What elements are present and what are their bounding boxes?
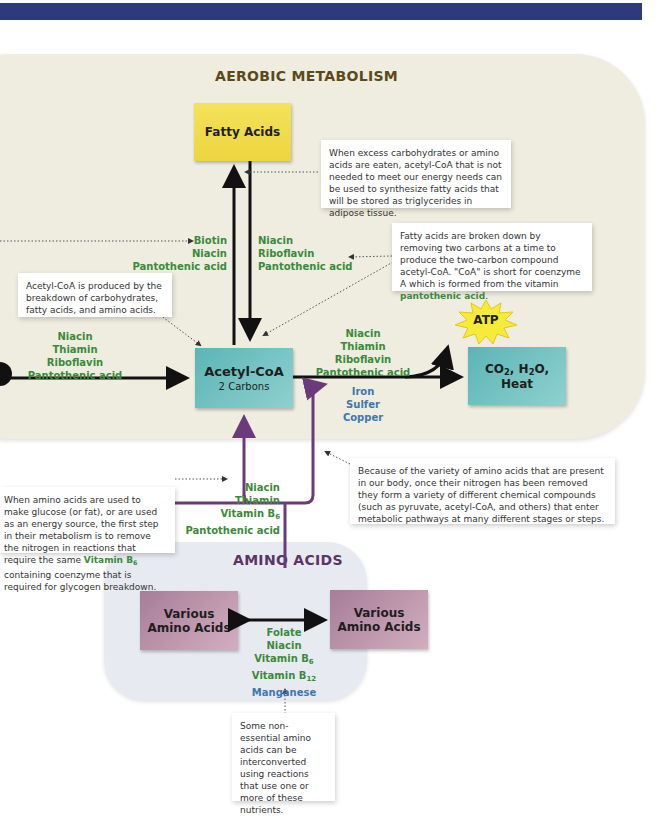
note-acetyl-coa: Acetyl-CoA is produced by the breakdown … [18, 273, 172, 317]
input-nutrients: Niacin Thiamin Riboflavin Pantothenic ac… [20, 330, 130, 382]
note-deamination: When amino acids are used to make glucos… [0, 487, 175, 553]
note-fatty-acid-breakdown: Fatty acids are broken down by removing … [392, 223, 592, 291]
synthesis-nutrients: Biotin Niacin Pantothenic acid [120, 234, 227, 273]
amino-nutrients: Folate Niacin Vitamin B6 Vitamin B12 Man… [234, 626, 334, 699]
krebs-minerals: Iron Sulfer Copper [333, 385, 393, 424]
krebs-vitamins: Niacin Thiamin Riboflavin Pantothenic ac… [308, 327, 418, 379]
breakdown-nutrients: Niacin Riboflavin Pantothenic acid [258, 234, 368, 273]
note-fatty-acid-synthesis: When excess carbohydrates or amino acids… [321, 140, 511, 208]
note-amino-variety: Because of the variety of amino acids th… [350, 458, 615, 524]
note-interconversion: Some non-essential amino acids can be in… [232, 713, 335, 801]
transition-nutrients: Niacin Thiamin Vitamin B6 Pantothenic ac… [180, 481, 280, 537]
